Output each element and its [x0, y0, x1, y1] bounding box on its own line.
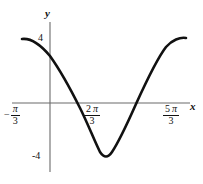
fraction-denominator: 3 — [84, 116, 100, 127]
pi-symbol: π — [13, 103, 18, 114]
pi-symbol: π — [93, 103, 98, 114]
x-tick-label-5-pi-over-3: 5 π 3 — [163, 104, 179, 126]
fraction-numerator: 2 π — [84, 104, 100, 116]
fraction-5pi-over-3: 5 π 3 — [163, 104, 179, 126]
cosine-curve — [22, 38, 186, 157]
coefficient: 2 — [86, 103, 91, 114]
fraction-denominator: 3 — [163, 116, 179, 127]
fraction-pi-over-3: π 3 — [11, 104, 20, 126]
fraction-denominator: 3 — [11, 116, 20, 127]
coefficient: 5 — [165, 103, 170, 114]
fraction-numerator: 5 π — [163, 104, 179, 116]
x-axis-label: x — [190, 101, 196, 112]
pi-symbol: π — [172, 103, 177, 114]
x-tick-label-2-pi-over-3: 2 π 3 — [84, 104, 100, 126]
minus-sign: − — [4, 110, 10, 120]
fraction-2pi-over-3: 2 π 3 — [84, 104, 100, 126]
plot-canvas — [0, 0, 203, 184]
y-tick-label-4: 4 — [38, 33, 43, 43]
y-tick-label-neg4: -4 — [32, 151, 40, 161]
fraction-numerator: π — [11, 104, 20, 116]
graph-figure: y x 4 -4 − π 3 2 π 3 5 π 3 — [0, 0, 203, 184]
x-tick-label-neg-pi-over-3: − π 3 — [4, 104, 20, 126]
y-axis-label: y — [45, 8, 50, 19]
